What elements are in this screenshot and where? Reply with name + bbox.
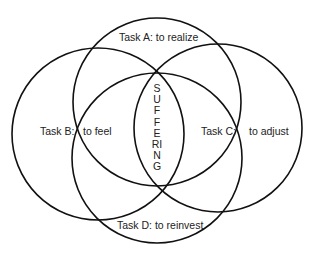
label-task-d: Task D: to reinvest bbox=[117, 220, 203, 231]
label-task-c-desc: to adjust bbox=[249, 126, 289, 137]
label-task-a: Task A: to realize bbox=[119, 32, 198, 43]
center-label-suffering: SUFFERING bbox=[151, 83, 163, 173]
venn-diagram: Task A: to realize Task B: to feel Task … bbox=[0, 0, 313, 254]
label-task-b-name: Task B: bbox=[40, 126, 74, 137]
label-task-c-name: Task C: bbox=[201, 126, 236, 137]
label-task-b-desc: to feel bbox=[83, 126, 112, 137]
